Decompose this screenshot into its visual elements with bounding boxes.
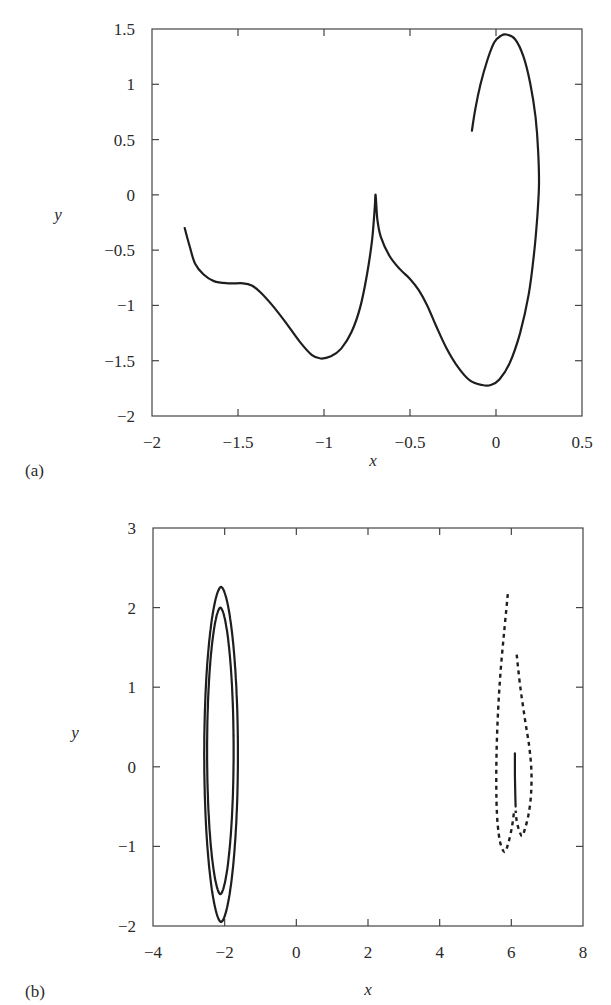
x-tick-label: −1.5 bbox=[223, 433, 254, 452]
panel-label: (a) bbox=[25, 461, 44, 480]
chart-panel-a: −2−1.5−1−0.500.5−2−1.5−1−0.500.511.5xy(a… bbox=[25, 20, 593, 480]
x-tick-label: 4 bbox=[435, 943, 444, 962]
x-tick-label: −2 bbox=[216, 943, 234, 962]
x-tick-label: −0.5 bbox=[395, 433, 426, 452]
series-solid-segment bbox=[515, 753, 516, 806]
y-tick-label: 3 bbox=[128, 519, 137, 538]
plot-frame bbox=[152, 29, 582, 416]
x-tick-label: −2 bbox=[143, 433, 161, 452]
series-trajectory bbox=[185, 34, 539, 385]
x-tick-label: 0 bbox=[292, 943, 301, 962]
x-tick-label: 0 bbox=[492, 433, 501, 452]
figure-canvas: −2−1.5−1−0.500.5−2−1.5−1−0.500.511.5xy(a… bbox=[0, 0, 611, 1005]
series-inner-loop bbox=[207, 608, 234, 895]
y-tick-label: 1 bbox=[127, 75, 136, 94]
x-axis-label: x bbox=[363, 980, 372, 999]
y-tick-label: −1 bbox=[118, 837, 136, 856]
x-tick-label: −1 bbox=[315, 433, 333, 452]
x-tick-label: 6 bbox=[507, 943, 516, 962]
series-dashed-trajectory-right bbox=[516, 655, 532, 837]
y-tick-label: 1 bbox=[128, 678, 137, 697]
chart-panel-b: −4−202468−2−10123xy(b) bbox=[25, 519, 587, 1001]
y-tick-label: 0 bbox=[127, 186, 136, 205]
panel-label: (b) bbox=[25, 982, 45, 1001]
y-tick-label: 1.5 bbox=[114, 20, 135, 39]
y-tick-label: −0.5 bbox=[104, 241, 135, 260]
x-tick-label: 2 bbox=[364, 943, 373, 962]
y-tick-label: 2 bbox=[128, 599, 137, 618]
x-tick-label: −4 bbox=[144, 943, 163, 962]
x-axis-label: x bbox=[368, 451, 377, 470]
y-axis-label: y bbox=[69, 723, 79, 742]
y-axis-label: y bbox=[52, 205, 62, 224]
y-tick-label: 0 bbox=[128, 758, 137, 777]
y-tick-label: 0.5 bbox=[114, 131, 135, 150]
y-tick-label: −1.5 bbox=[104, 352, 135, 371]
x-tick-label: 8 bbox=[579, 943, 588, 962]
y-tick-label: −1 bbox=[117, 296, 135, 315]
y-tick-label: −2 bbox=[118, 917, 136, 936]
y-tick-label: −2 bbox=[117, 407, 135, 426]
series-dashed-trajectory-left bbox=[496, 594, 514, 852]
plot-frame bbox=[153, 528, 583, 926]
x-tick-label: 0.5 bbox=[571, 433, 592, 452]
